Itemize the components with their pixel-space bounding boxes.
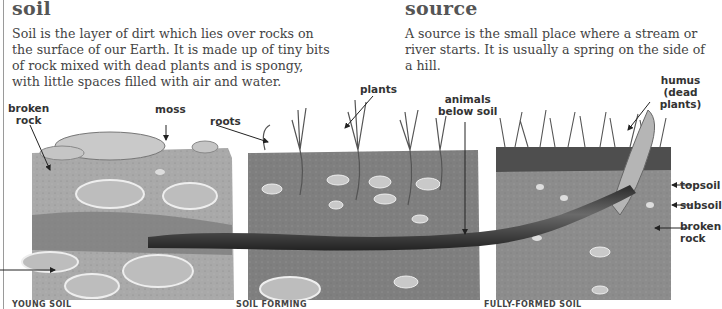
label-broken-rock-left: broken rock	[8, 102, 49, 126]
young-soil-block	[22, 132, 234, 300]
label-line: rock	[8, 114, 49, 126]
label-line: animals	[438, 93, 497, 105]
label-line: humus	[642, 74, 719, 86]
label-roots: roots	[210, 115, 241, 127]
label-line: rock	[680, 232, 721, 244]
label-moss: moss	[155, 103, 186, 115]
label-subsoil: subsoil	[680, 199, 722, 211]
caption-fully-formed-soil: FULLY-FORMED SOIL	[484, 300, 582, 309]
label-animals-below-soil: animals below soil	[438, 93, 497, 117]
fully-formed-soil-block	[496, 110, 671, 300]
label-plants: plants	[360, 83, 397, 95]
label-broken-rock-right: broken rock	[680, 220, 721, 244]
leader-plants	[345, 96, 373, 128]
caption-young-soil: YOUNG SOIL	[12, 300, 72, 309]
soil-forming-block	[248, 100, 480, 301]
label-line: broken	[8, 102, 49, 114]
label-topsoil: topsoil	[680, 179, 720, 191]
caption-soil-forming: SOIL FORMING	[236, 300, 307, 309]
leader-roots	[216, 125, 268, 142]
label-line: (dead plants)	[642, 86, 719, 110]
label-line: below soil	[438, 105, 497, 117]
label-line: broken	[680, 220, 721, 232]
label-humus: humus (dead plants)	[642, 74, 719, 110]
